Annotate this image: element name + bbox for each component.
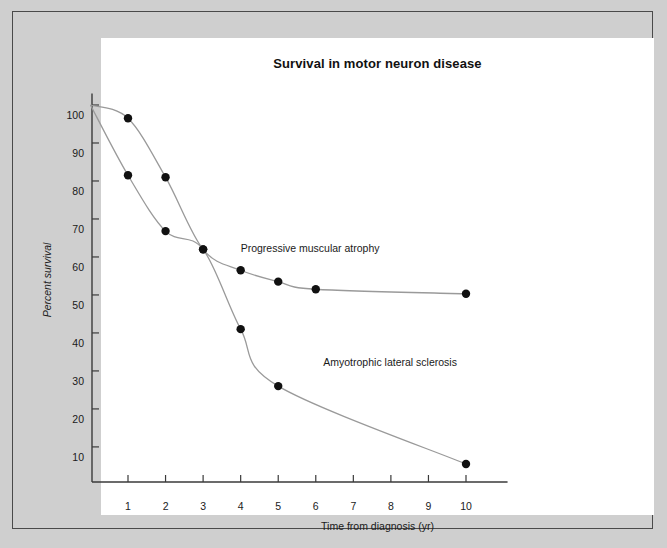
figure-container: Survival in motor neuron disease Percent… [0, 0, 667, 548]
data-point-marker [124, 114, 132, 122]
data-point-marker [161, 227, 169, 235]
data-point-marker [462, 460, 470, 468]
data-point-marker [462, 290, 470, 298]
data-point-marker [274, 382, 282, 390]
data-point-marker [274, 277, 282, 285]
data-point-marker [124, 171, 132, 179]
figure-frame: Survival in motor neuron disease Percent… [12, 11, 653, 529]
data-point-marker [236, 266, 244, 274]
series-curve [90, 105, 466, 294]
plot-svg [13, 12, 654, 530]
series-group [90, 105, 470, 468]
data-point-marker [236, 325, 244, 333]
data-point-marker [199, 245, 207, 253]
data-point-marker [312, 285, 320, 293]
data-point-marker [161, 173, 169, 181]
